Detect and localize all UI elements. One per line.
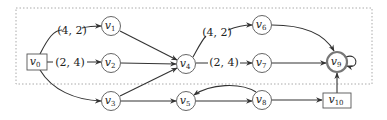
edge-label-v4-v6: (4, 2) <box>202 26 232 39</box>
edge-v3-v4 <box>120 68 177 96</box>
node-v6: v6 <box>253 16 272 35</box>
edge-label-v4-v7: (2, 4) <box>209 56 239 69</box>
node-v2: v2 <box>102 54 121 73</box>
node-v4: v4 <box>177 55 196 74</box>
edge-v8-v5 <box>194 86 256 95</box>
node-v0: v0 <box>27 54 47 70</box>
node-v7: v7 <box>253 54 272 73</box>
edge-label-v0-v1: (4, 2) <box>57 24 87 37</box>
edge-v2-v4 <box>121 63 176 64</box>
node-v8: v8 <box>253 91 272 110</box>
dotted-frame <box>16 8 372 84</box>
node-v5: v5 <box>177 92 196 111</box>
edge-label-v0-v2: (2, 4) <box>55 56 85 69</box>
node-v10: v10 <box>323 93 351 108</box>
graph-diagram: (4, 2) (2, 4) (4, 2) (2, 4) v0 v1 v2 v3 … <box>0 0 387 120</box>
node-v1: v1 <box>102 17 121 36</box>
node-v9: v9 <box>327 52 347 72</box>
edge-v0-v3 <box>40 70 101 101</box>
edge-v1-v4 <box>120 31 177 60</box>
node-v3: v3 <box>102 92 121 111</box>
edge-v6-v9 <box>272 25 334 51</box>
edges <box>40 25 356 101</box>
